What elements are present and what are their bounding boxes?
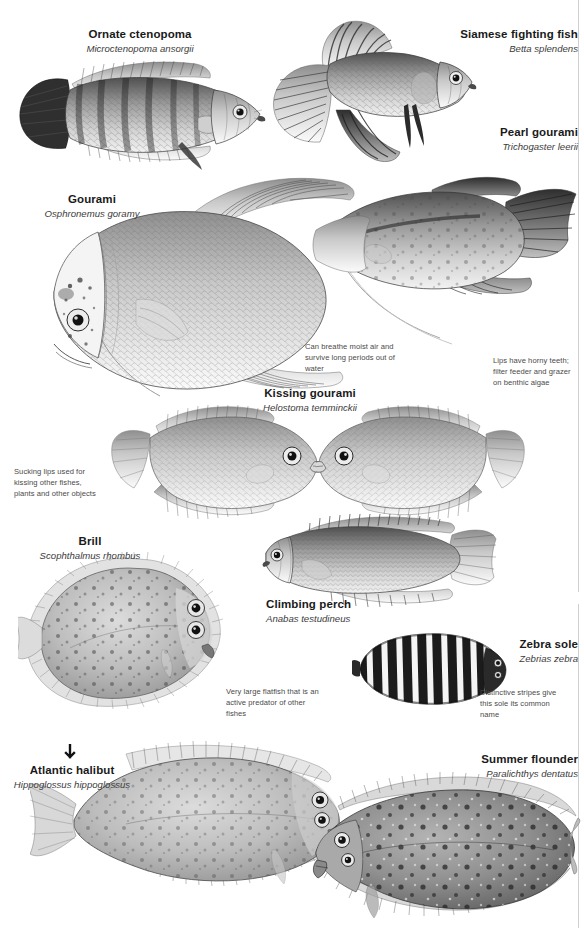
label-atlantic-halibut: Atlantic halibut Hippoglossus hippogloss…: [10, 764, 134, 790]
label-ornate-ctenopoma: Ornate ctenopoma Microctenopoma ansorgii: [55, 28, 225, 54]
scientific-name: Hippoglossus hippoglossus: [10, 779, 134, 790]
label-pearl-gourami: Pearl gourami Trichogaster leerii: [390, 126, 578, 152]
illustration-summer-flounder: [286, 762, 581, 922]
common-name: Brill: [20, 535, 160, 549]
encyclopedia-page: Ornate ctenopoma Microctenopoma ansorgii: [0, 0, 584, 928]
label-climbing-perch: Climbing perch Anabas testudineus: [266, 598, 446, 624]
scientific-name: Scophthalmus rhombus: [20, 550, 160, 561]
illustration-brill: [18, 552, 248, 712]
common-name: Climbing perch: [266, 598, 446, 612]
note-gourami-air-breathing: Can breathe moist air and survive long p…: [305, 341, 397, 374]
label-siamese-fighting-fish: Siamese fighting fish Betta splendens: [340, 28, 578, 54]
scientific-name: Helostoma temminckii: [230, 402, 390, 413]
common-name: Kissing gourami: [230, 387, 390, 401]
label-zebra-sole: Zebra sole Zebrias zebra: [430, 638, 578, 664]
label-gourami: Gourami Osphronemus goramy: [12, 193, 172, 219]
common-name: Summer flounder: [400, 753, 578, 767]
note-pearl-gourami-lips: Lips have horny teeth; filter feeder and…: [493, 355, 579, 388]
scientific-name: Betta splendens: [340, 43, 578, 54]
illustration-ornate-ctenopoma: [10, 52, 275, 172]
scientific-name: Osphronemus goramy: [12, 208, 172, 219]
common-name: Zebra sole: [430, 638, 578, 652]
label-summer-flounder: Summer flounder Paralichthys dentatus: [400, 753, 578, 779]
scientific-name: Trichogaster leerii: [390, 141, 578, 152]
note-zebra-sole-stripes: Distinctive stripes give this sole its c…: [480, 687, 568, 720]
scientific-name: Microctenopoma ansorgii: [55, 43, 225, 54]
scientific-name: Paralichthys dentatus: [400, 768, 578, 779]
scientific-name: Zebrias zebra: [430, 653, 578, 664]
common-name: Pearl gourami: [390, 126, 578, 140]
scientific-name: Anabas testudineus: [266, 613, 446, 624]
common-name: Ornate ctenopoma: [55, 28, 225, 42]
common-name: Atlantic halibut: [10, 764, 134, 778]
label-brill: Brill Scophthalmus rhombus: [20, 535, 160, 561]
label-kissing-gourami: Kissing gourami Helostoma temminckii: [230, 387, 390, 413]
note-kissing-gourami-lips: Sucking lips used for kissing other fish…: [14, 466, 100, 499]
common-name: Siamese fighting fish: [340, 28, 578, 42]
note-halibut-predator: Very large flatfish that is an active pr…: [226, 686, 322, 719]
common-name: Gourami: [12, 193, 172, 207]
